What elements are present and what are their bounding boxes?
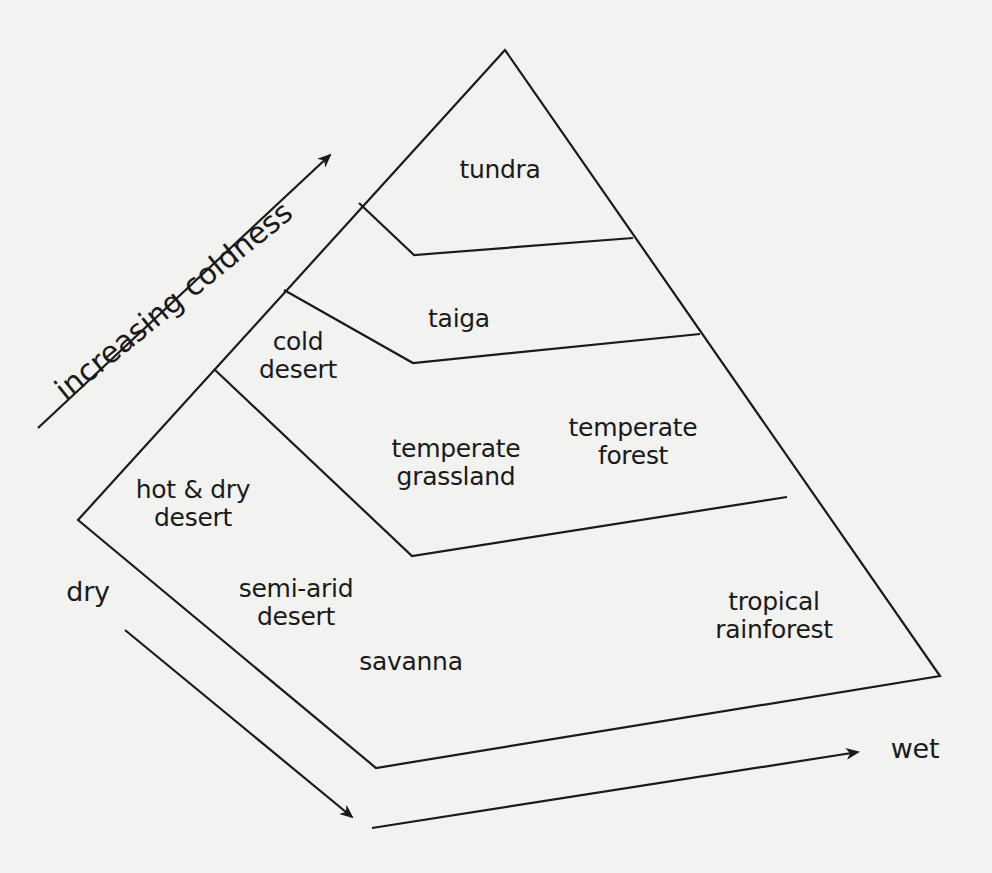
biome-taiga: taiga <box>428 305 490 333</box>
tundra-boundary <box>359 203 633 255</box>
wet-arrow <box>372 752 858 828</box>
biome-semi-arid-desert: semi-arid desert <box>239 575 353 631</box>
biome-temperate-grassland: temperate grassland <box>392 435 521 491</box>
biome-savanna: savanna <box>359 648 462 676</box>
biome-cold-desert: cold desert <box>259 328 337 384</box>
biome-temperate-forest: temperate forest <box>569 414 698 470</box>
biome-tropical-rainforest: tropical rainforest <box>715 588 832 644</box>
dry-axis-label: dry <box>66 578 109 606</box>
dry-arrow <box>125 630 352 817</box>
biome-hot-dry-desert: hot & dry desert <box>136 476 251 532</box>
biome-tundra: tundra <box>459 156 540 184</box>
taiga-boundary <box>284 290 700 363</box>
wet-axis-label: wet <box>891 735 939 763</box>
biome-pyramid-diagram: increasing coldness dry wet tundra cold … <box>0 0 992 873</box>
